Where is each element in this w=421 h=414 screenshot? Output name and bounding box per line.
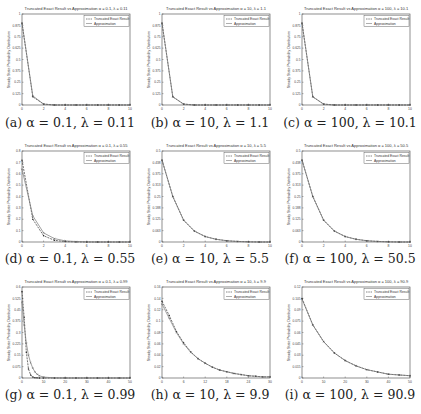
svg-text:2: 2 [183, 107, 185, 111]
svg-text:0.875: 0.875 [13, 24, 21, 28]
y-axis-label: Steady State Probability Distribution [287, 168, 291, 225]
y-axis-label: Steady State Probability Distribution [147, 304, 151, 361]
line-chart: Truncated Exact Result vs Approximation … [0, 137, 140, 249]
svg-text:Approximation: Approximation [374, 22, 396, 26]
svg-text:0.438: 0.438 [293, 161, 301, 165]
svg-text:0.188: 0.188 [153, 206, 161, 210]
svg-text:0.09: 0.09 [294, 308, 300, 312]
svg-text:0: 0 [301, 380, 303, 384]
svg-text:8: 8 [107, 244, 109, 248]
svg-text:10: 10 [268, 107, 272, 111]
svg-text:0.125: 0.125 [293, 217, 301, 221]
svg-text:10: 10 [322, 380, 326, 384]
svg-text:6: 6 [86, 107, 88, 111]
svg-text:10: 10 [268, 244, 272, 248]
svg-text:0.875: 0.875 [293, 24, 301, 28]
legend: Truncated Exact ResultApproximation [84, 153, 129, 164]
svg-text:0.125: 0.125 [293, 92, 301, 96]
y-axis-label: Steady State Probability Distribution [7, 304, 11, 361]
svg-text:0: 0 [19, 103, 21, 107]
x-axis-label: n [215, 248, 217, 249]
svg-text:0.12: 0.12 [154, 308, 160, 312]
svg-text:0.8: 0.8 [16, 149, 21, 153]
plot-area [22, 287, 130, 378]
subfigure-caption-e: (e) α = 10, λ = 5.5 [140, 251, 280, 266]
svg-text:Approximation: Approximation [94, 295, 116, 299]
svg-text:0.063: 0.063 [153, 229, 161, 233]
svg-text:0.075: 0.075 [293, 319, 301, 323]
svg-text:0.5: 0.5 [296, 58, 301, 62]
svg-text:Approximation: Approximation [234, 159, 256, 163]
svg-text:0.14: 0.14 [154, 297, 160, 301]
svg-text:0.5: 0.5 [16, 183, 21, 187]
svg-text:Truncated Exact Result: Truncated Exact Result [234, 17, 269, 21]
svg-text:Approximation: Approximation [374, 159, 396, 163]
x-axis-label: n [75, 384, 77, 385]
chart-title: Truncated Exact Result vs Approximation … [166, 279, 267, 284]
svg-text:0.45: 0.45 [14, 308, 20, 312]
x-axis-label: n [215, 111, 217, 112]
x-axis-label: n [75, 248, 77, 249]
plot-area [162, 287, 270, 378]
svg-text:0.5: 0.5 [296, 149, 301, 153]
svg-text:0.5: 0.5 [156, 149, 161, 153]
svg-text:0.075: 0.075 [13, 365, 21, 369]
chart-title: Truncated Exact Result vs Approximation … [24, 279, 128, 284]
svg-text:0.225: 0.225 [13, 342, 21, 346]
plot-area [302, 287, 410, 378]
svg-text:0.313: 0.313 [153, 183, 161, 187]
subfigure-caption-d: (d) α = 0.1, λ = 0.55 [0, 251, 140, 266]
svg-text:1: 1 [299, 12, 301, 16]
svg-text:0.25: 0.25 [294, 80, 300, 84]
svg-text:0.438: 0.438 [153, 161, 161, 165]
svg-text:0: 0 [19, 376, 21, 380]
svg-text:0: 0 [301, 107, 303, 111]
svg-text:8: 8 [107, 107, 109, 111]
svg-text:0.188: 0.188 [293, 206, 301, 210]
svg-text:0.375: 0.375 [153, 172, 161, 176]
svg-text:0.4: 0.4 [16, 195, 21, 199]
svg-text:0.08: 0.08 [154, 331, 160, 335]
svg-text:40: 40 [387, 380, 391, 384]
chart-title: Truncated Exact Result vs Approximation … [166, 6, 267, 11]
svg-text:0.5: 0.5 [156, 58, 161, 62]
svg-text:0.375: 0.375 [153, 69, 161, 73]
line-chart: Truncated Exact Result vs Approximation … [140, 0, 280, 112]
svg-text:10: 10 [42, 380, 46, 384]
svg-text:10: 10 [128, 107, 132, 111]
svg-text:Truncated Exact Result: Truncated Exact Result [94, 154, 129, 158]
svg-text:4: 4 [64, 244, 66, 248]
subfigure-caption-b: (b) α = 10, λ = 1.1 [140, 115, 280, 130]
svg-text:50: 50 [128, 380, 132, 384]
svg-text:Truncated Exact Result: Truncated Exact Result [374, 17, 409, 21]
svg-text:Truncated Exact Result: Truncated Exact Result [374, 290, 409, 294]
legend: Truncated Exact ResultApproximation [84, 16, 129, 27]
chart-title: Truncated Exact Result vs Approximation … [304, 279, 409, 284]
svg-text:8: 8 [387, 107, 389, 111]
svg-text:0.875: 0.875 [153, 24, 161, 28]
svg-text:0.375: 0.375 [293, 172, 301, 176]
svg-text:Truncated Exact Result: Truncated Exact Result [234, 154, 269, 158]
svg-text:0.015: 0.015 [293, 365, 301, 369]
svg-text:0.045: 0.045 [293, 342, 301, 346]
svg-text:Approximation: Approximation [374, 295, 396, 299]
svg-text:0.125: 0.125 [153, 217, 161, 221]
x-axis-label: n [215, 384, 217, 385]
legend: Truncated Exact ResultApproximation [224, 153, 269, 164]
svg-text:8: 8 [247, 107, 249, 111]
svg-text:4: 4 [344, 107, 346, 111]
y-axis-label: Steady State Probability Distribution [287, 31, 291, 88]
legend: Truncated Exact ResultApproximation [84, 289, 129, 300]
svg-text:0.063: 0.063 [293, 229, 301, 233]
line-chart: Truncated Exact Result vs Approximation … [280, 137, 420, 249]
svg-text:20: 20 [343, 380, 347, 384]
svg-text:0.125: 0.125 [153, 92, 161, 96]
subfigure-caption-f: (f) α = 100, λ = 50.5 [280, 251, 420, 266]
svg-text:10: 10 [408, 244, 412, 248]
svg-text:2: 2 [323, 107, 325, 111]
svg-text:Approximation: Approximation [234, 295, 256, 299]
svg-text:Truncated Exact Result: Truncated Exact Result [374, 154, 409, 158]
legend: Truncated Exact ResultApproximation [224, 289, 269, 300]
svg-text:6: 6 [366, 107, 368, 111]
svg-text:4: 4 [344, 244, 346, 248]
